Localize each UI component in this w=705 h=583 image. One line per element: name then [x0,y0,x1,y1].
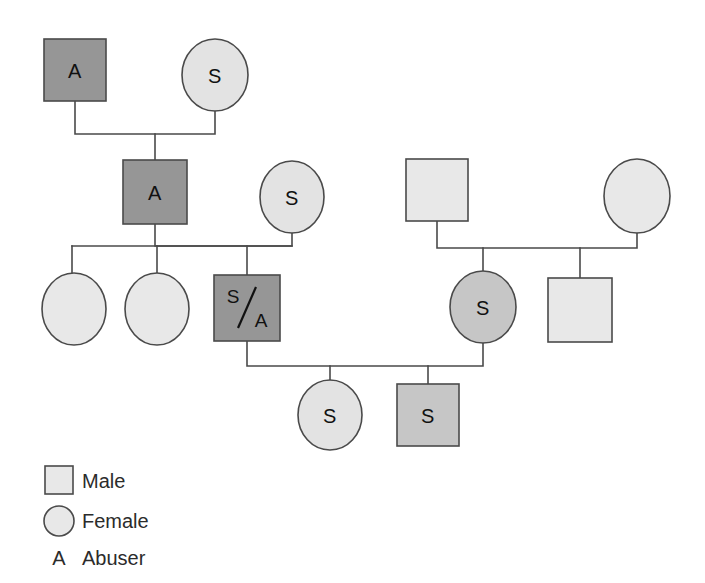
person-label-abuser: A [255,310,268,331]
male-square-shape [548,278,612,342]
person-g1-female-survivor[interactable]: S [182,39,248,111]
person-g3-female-1[interactable] [42,273,106,345]
male-square-shape [406,159,468,221]
union-line-generation-2-right [437,221,637,248]
legend-key-abuser: A [52,547,66,569]
person-label: A [68,60,82,82]
female-circle-shape [604,159,670,233]
generation-1: A S [44,39,248,111]
person-label: S [323,405,337,427]
male-square-icon [45,466,73,494]
union-line-generation-2-left [155,224,292,246]
legend-label-abuser: Abuser [82,547,146,569]
person-g3-male-survivor-abuser[interactable]: S A [214,275,280,341]
person-g1-male-abuser[interactable]: A [44,39,106,101]
person-label-survivor: S [227,286,240,307]
person-label: S [208,65,222,87]
person-g2-male-abuser[interactable]: A [123,160,187,224]
legend-item-female: Female [44,506,149,536]
female-circle-shape [125,273,189,345]
union-line-generation-3 [247,341,483,366]
female-circle-icon [44,506,74,536]
person-g2-female-survivor[interactable]: S [260,161,324,233]
generation-2: A S [123,159,670,233]
generation-3: S A S [42,271,612,345]
person-g2-female-right[interactable] [604,159,670,233]
legend-label-male: Male [82,470,125,492]
person-label: S [421,405,435,427]
genogram-diagram: A S A S [0,0,705,583]
person-g4-female-survivor[interactable]: S [298,380,362,450]
union-line-generation-1 [75,101,215,134]
person-g3-female-2[interactable] [125,273,189,345]
legend-item-abuser: A Abuser [52,547,145,569]
female-circle-shape [42,273,106,345]
person-g4-male-survivor[interactable]: S [397,384,459,446]
person-label: S [285,187,299,209]
legend-label-female: Female [82,510,149,532]
person-label: A [148,182,162,204]
generation-4: S S [298,380,459,450]
person-g2-male-right[interactable] [406,159,468,221]
person-g3-female-survivor[interactable]: S [450,271,516,343]
genogram-canvas: A S A S [0,0,705,583]
person-g3-male-right[interactable] [548,278,612,342]
legend-item-male: Male [45,466,125,494]
person-label: S [476,297,490,319]
legend: Male Female A Abuser [44,466,149,569]
